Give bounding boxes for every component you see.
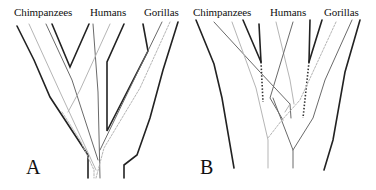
panel-a-gene-lineages [29,22,170,178]
panel-b-species-tree [196,20,360,170]
tree-drawing [0,0,376,190]
phylogeny-figure: Chimpanzees Humans Gorillas Chimpanzees … [0,0,376,190]
panel-b-dotted-connectors [261,62,309,118]
panel-a-species-tree [17,22,178,178]
